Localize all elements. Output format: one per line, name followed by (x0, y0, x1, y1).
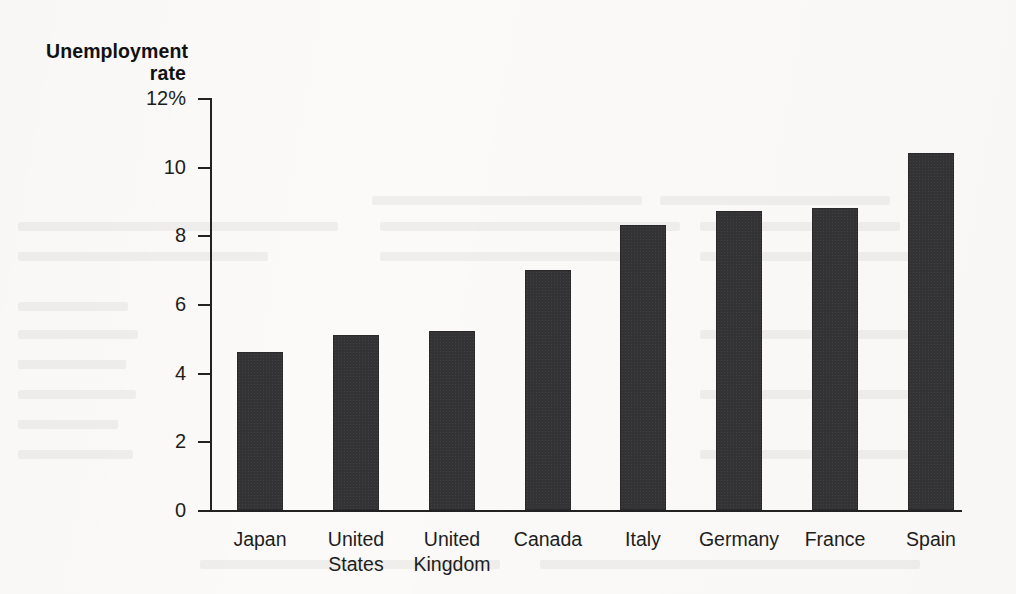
y-tick-10 (198, 167, 210, 169)
y-tick-12 (198, 98, 210, 100)
y-tick-label-4: 4 (86, 363, 186, 383)
y-axis-title-line-2: rate (46, 62, 186, 84)
unemployment-rate-bar-chart: Unemployment rate 12% 10 8 6 4 2 (0, 0, 1016, 594)
bar-japan (237, 352, 283, 510)
y-tick-label-10: 10 (86, 157, 186, 177)
y-tick-label-2-wrap: 2 (86, 431, 186, 451)
y-tick-label-12: 12% (86, 88, 186, 108)
bar-spain (908, 153, 954, 510)
x-axis-line (210, 510, 962, 512)
x-label-spain-line-1: Spain (866, 527, 996, 552)
scanned-page: Unemployment rate 12% 10 8 6 4 2 (0, 0, 1016, 594)
x-label-united-kingdom-line-2: Kingdom (387, 552, 517, 577)
y-tick-2 (198, 441, 210, 443)
bar-united-kingdom (429, 331, 475, 510)
y-axis-title-line-1: Unemployment (46, 40, 186, 62)
bar-united-states (333, 335, 379, 510)
y-tick-label-4-wrap: 4 (86, 363, 186, 383)
y-tick-6 (198, 304, 210, 306)
y-tick-label-0: 0 (86, 500, 186, 520)
y-tick-label-6-wrap: 6 (86, 294, 186, 314)
y-tick-0 (198, 510, 210, 512)
y-tick-label-12-wrap: 12% (86, 88, 186, 108)
bar-france (812, 208, 858, 510)
y-axis-line (210, 98, 212, 512)
y-tick-4 (198, 373, 210, 375)
x-label-spain: Spain (866, 527, 996, 552)
y-tick-label-10-wrap: 10 (86, 157, 186, 177)
bar-germany (716, 211, 762, 510)
y-tick-8 (198, 235, 210, 237)
y-tick-label-8: 8 (86, 225, 186, 245)
y-tick-label-0-wrap: 0 (86, 500, 186, 520)
y-tick-label-8-wrap: 8 (86, 225, 186, 245)
y-tick-label-2: 2 (86, 431, 186, 451)
bar-canada (525, 270, 571, 510)
y-tick-label-6: 6 (86, 294, 186, 314)
bar-italy (620, 225, 666, 510)
y-axis-title: Unemployment rate (46, 40, 186, 84)
